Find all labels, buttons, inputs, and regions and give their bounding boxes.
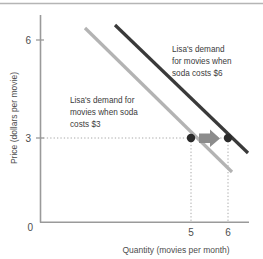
x-tick-label-5: 5: [188, 227, 194, 238]
chart-canvas: 6 3 0 5 6 Quantity (movies per month) Pr…: [0, 0, 263, 259]
y-tick-label-6: 6: [25, 35, 31, 46]
annotation-soda-3: Lisa's demand for movies when soda costs…: [70, 96, 138, 129]
annotation-soda-3-line-3: costs $3: [70, 120, 101, 129]
annotation-soda-6-line-1: Lisa's demand: [172, 45, 225, 54]
annotation-soda-3-line-1: Lisa's demand for: [70, 96, 135, 105]
x-tick-label-6: 6: [225, 227, 231, 238]
marker-point-q5-p3: [187, 134, 195, 142]
annotation-soda-6-line-2: for movies when: [172, 57, 232, 66]
x-axis-title: Quantity (movies per month): [122, 245, 229, 255]
y-tick-label-3: 3: [25, 133, 31, 144]
annotation-soda-3-line-2: movies when soda: [70, 108, 138, 117]
origin-label: 0: [27, 222, 33, 233]
guide-lines: [40, 138, 228, 222]
demand-shift-chart: 6 3 0 5 6 Quantity (movies per month) Pr…: [0, 0, 263, 259]
marker-point-q6-p3: [224, 134, 232, 142]
y-axis-title: Price (dollars per movie): [9, 72, 19, 164]
annotation-soda-6-line-3: soda costs $6: [172, 69, 223, 78]
annotation-soda-6: Lisa's demand for movies when soda costs…: [172, 45, 232, 78]
